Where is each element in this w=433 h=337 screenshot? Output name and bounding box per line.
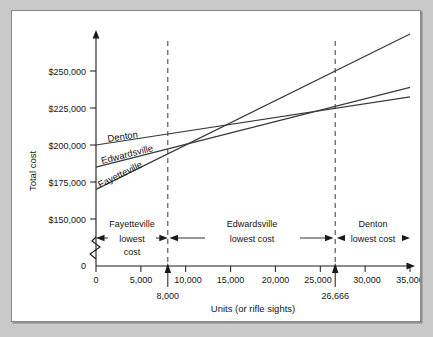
x-axis-title: Units (or rifle sights) — [211, 303, 295, 314]
region-arrow-fayetteville-left — [96, 235, 105, 241]
chart-panel: $250,000 $225,000 $200,000 $175,000 $150… — [11, 10, 421, 322]
x-axis — [96, 263, 415, 272]
marker-arrow-8000 — [165, 263, 171, 273]
region-arrow-denton-right — [402, 235, 411, 241]
indifference-markers: 8,000 26,666 — [157, 41, 349, 301]
region-label-fayetteville-line1: Fayetteville — [109, 219, 155, 229]
indifference-label-8000: 8,000 — [157, 291, 180, 301]
indifference-label-26666: 26,666 — [321, 291, 349, 301]
y-axis-break-symbol — [90, 237, 100, 259]
y-axis — [90, 30, 100, 266]
series-label-denton: Denton — [107, 128, 139, 144]
x-tick-label-35000: 35,000 — [396, 275, 420, 285]
marker-arrow-26666 — [332, 263, 338, 273]
region-label-fayetteville-line3: cost — [124, 247, 141, 257]
region-arrow-denton-left — [337, 235, 346, 241]
y-axis-title: Total cost — [27, 151, 38, 191]
x-tick-label-15000: 15,000 — [217, 275, 245, 285]
y-tick-label-150000: $150,000 — [48, 215, 86, 225]
x-axis-arrow — [407, 263, 416, 270]
cost-comparison-chart: $250,000 $225,000 $200,000 $175,000 $150… — [12, 11, 420, 321]
region-arrow-edwardsville-right — [325, 235, 334, 241]
y-tick-label-225000: $225,000 — [48, 104, 86, 114]
line-denton — [96, 97, 410, 145]
x-tick-label-20000: 20,000 — [262, 275, 290, 285]
region-arrow-edwardsville-left — [170, 235, 179, 241]
region-label-fayetteville-line2-overlay: lowest — [119, 234, 145, 244]
y-tick-label-175000: $175,000 — [48, 178, 86, 188]
x-tick-label-10000: 10,000 — [174, 275, 202, 285]
x-tick-labels: 0 5,000 10,000 15,000 20,000 25,000 30,0… — [93, 275, 420, 285]
region-label-edwardsville-line2-overlay: lowest cost — [230, 234, 275, 244]
y-tick-label-200000: $200,000 — [48, 141, 86, 151]
y-tick-label-250000: $250,000 — [48, 67, 86, 77]
x-tick-label-5000: 5,000 — [130, 275, 153, 285]
cost-lines — [96, 34, 410, 189]
x-tick-label-25000: 25,000 — [304, 275, 332, 285]
line-fayetteville — [96, 34, 410, 189]
figure-root: $250,000 $225,000 $200,000 $175,000 $150… — [0, 0, 433, 337]
x-tick-label-0: 0 — [93, 275, 98, 285]
region-label-denton-line2-overlay: lowest cost — [351, 234, 396, 244]
region-arrow-fayetteville-right — [159, 235, 168, 241]
y-tick-labels: $250,000 $225,000 $200,000 $175,000 $150… — [48, 67, 86, 272]
region-label-edwardsville-line1: Edwardsville — [227, 219, 278, 229]
region-label-denton-line1: Denton — [358, 219, 387, 229]
y-axis-arrow — [93, 30, 100, 39]
series-label-edwardsville: Edwardsville — [100, 142, 154, 166]
x-tick-label-30000: 30,000 — [353, 275, 381, 285]
y-tick-label-zero: 0 — [81, 261, 86, 271]
